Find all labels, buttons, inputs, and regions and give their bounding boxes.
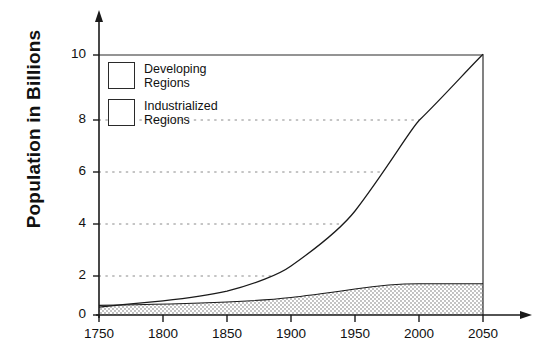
x-tick-label-2050: 2050 [453,326,513,341]
legend-label-line1: Developing [144,62,207,76]
y-tick-label-6: 6 [52,163,86,178]
legend-label-line1: Industrialized [144,99,218,113]
x-axis-arrow-icon [520,311,532,319]
x-tick-label-1950: 1950 [325,326,385,341]
y-tick-label-4: 4 [52,215,86,230]
y-tick-label-0: 0 [52,306,86,321]
chart-legend: Developing Regions Industrialized Region… [108,62,218,136]
y-tick-marks [93,55,99,315]
legend-label-line2: Regions [144,113,218,127]
x-tick-label-1800: 1800 [133,326,193,341]
x-tick-label-1850: 1850 [197,326,257,341]
y-tick-label-8: 8 [52,111,86,126]
legend-label-line2: Regions [144,76,207,90]
y-tick-label-2: 2 [52,267,86,282]
legend-swatch-stippled-square [108,99,135,126]
legend-item-developing-regions: Developing Regions [108,62,218,90]
x-tick-label-1900: 1900 [261,326,321,341]
population-chart: Population in Billions [0,0,539,361]
legend-label-industrialized-regions: Industrialized Regions [144,99,218,127]
y-tick-label-10: 10 [52,46,86,61]
x-tick-label-2000: 2000 [389,326,449,341]
x-tick-label-1750: 1750 [69,326,129,341]
legend-label-developing-regions: Developing Regions [144,62,207,90]
legend-item-industrialized-regions: Industrialized Regions [108,99,218,127]
x-tick-marks [99,315,483,322]
y-axis-arrow-icon [95,10,103,22]
legend-swatch-white-square [108,62,135,89]
